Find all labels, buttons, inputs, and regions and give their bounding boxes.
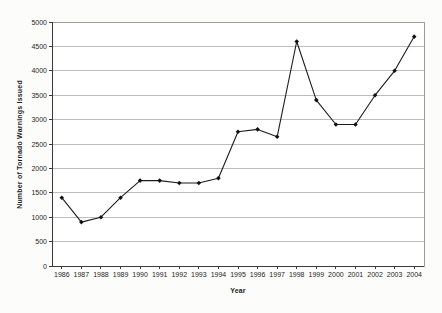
x-tick-label-1989: 1989 xyxy=(113,271,129,278)
x-tick-label-1992: 1992 xyxy=(171,271,187,278)
x-tick-label-1986: 1986 xyxy=(54,271,70,278)
y-tick-label-500: 500 xyxy=(35,238,47,245)
x-tick-label-1998: 1998 xyxy=(289,271,305,278)
x-tick-label-1996: 1996 xyxy=(250,271,266,278)
y-tick-label-4500: 4500 xyxy=(31,43,47,50)
x-tick-label-1997: 1997 xyxy=(269,271,285,278)
x-tick-label-2002: 2002 xyxy=(367,271,383,278)
x-tick-label-1995: 1995 xyxy=(230,271,246,278)
x-tick-label-1993: 1993 xyxy=(191,271,207,278)
y-tick-label-3500: 3500 xyxy=(31,92,47,99)
y-tick-label-1500: 1500 xyxy=(31,189,47,196)
x-tick-label-1994: 1994 xyxy=(211,271,227,278)
y-tick-label-0: 0 xyxy=(43,263,47,270)
y-tick-label-3000: 3000 xyxy=(31,116,47,123)
x-tick-label-1987: 1987 xyxy=(74,271,90,278)
y-tick-label-1000: 1000 xyxy=(31,214,47,221)
x-axis-title: Year xyxy=(52,287,424,294)
x-tick-label-1991: 1991 xyxy=(152,271,168,278)
chart-plot-area: 0500100015002000250030003500400045005000… xyxy=(0,0,442,313)
y-tick-label-5000: 5000 xyxy=(31,19,47,26)
x-tick-label-2001: 2001 xyxy=(348,271,364,278)
tornado-warnings-line-chart: 0500100015002000250030003500400045005000… xyxy=(0,0,442,313)
x-tick-label-2000: 2000 xyxy=(328,271,344,278)
x-tick-label-1990: 1990 xyxy=(132,271,148,278)
x-tick-label-1999: 1999 xyxy=(309,271,325,278)
y-tick-label-2000: 2000 xyxy=(31,165,47,172)
x-tick-label-2003: 2003 xyxy=(387,271,403,278)
x-tick-label-2004: 2004 xyxy=(406,271,422,278)
y-axis-title: Number of Tornado Warnings Issued xyxy=(16,23,25,267)
y-tick-label-2500: 2500 xyxy=(31,141,47,148)
y-tick-label-4000: 4000 xyxy=(31,67,47,74)
x-tick-label-1988: 1988 xyxy=(93,271,109,278)
